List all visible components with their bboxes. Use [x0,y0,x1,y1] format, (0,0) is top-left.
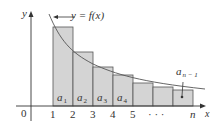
term-rectangle [133,83,153,106]
curve-label-arrow-icon [53,15,58,19]
term-label: a4 [117,92,127,105]
x-axis-label: x [205,109,209,119]
last-term-sub: n − 1 [183,71,198,79]
x-tick-label: 1 [50,109,56,120]
x-tick-label: 4 [110,109,116,120]
term-label: a2 [77,92,87,105]
origin-label: 0 [21,108,27,119]
x-tick-label: 2 [70,109,76,120]
term-rectangle [153,87,173,106]
last-term-label: an − 1 [176,66,198,79]
y-axis-arrow-icon [29,11,34,17]
last-term-dot [181,96,184,99]
term-label: a1 [57,92,67,105]
riemann-sum-diagram: y x 0 y = f(x) 12345· · ·n a1a2a3a4 an −… [0,0,214,132]
last-term-base: a [176,65,182,77]
term-label: a3 [97,92,107,105]
curve-label: y = f(x) [71,10,104,21]
x-tick-label: · · · [148,109,165,120]
term-rectangle [173,90,193,106]
x-tick-label: 3 [90,109,96,120]
x-tick-label: 5 [130,109,136,120]
y-axis-label: y [22,8,27,19]
x-tick-label: n [190,109,196,120]
